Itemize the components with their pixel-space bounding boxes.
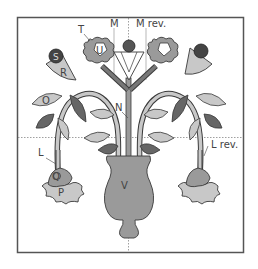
label-t: T — [77, 24, 85, 35]
label-u: U — [96, 45, 103, 56]
label-p: P — [58, 187, 64, 198]
label-s: S — [53, 52, 59, 62]
label-l-rev: L rev. — [211, 139, 238, 150]
applique-diagram: T U M M rev. S R O N L L rev. Q P V — [0, 0, 258, 269]
label-m: M — [110, 18, 119, 29]
label-l: L — [38, 147, 44, 158]
flower-u-rev — [147, 37, 178, 63]
label-r: R — [60, 67, 67, 78]
berry-s-rev — [194, 44, 208, 58]
label-o: O — [42, 95, 50, 106]
label-m-rev: M rev. — [136, 18, 166, 29]
center-berry — [123, 40, 135, 52]
label-v: V — [121, 180, 128, 191]
label-q: Q — [52, 171, 60, 182]
label-n: N — [115, 102, 122, 113]
